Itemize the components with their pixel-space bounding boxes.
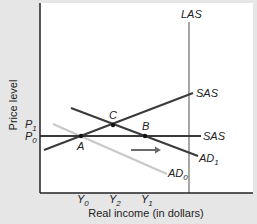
point-a-label: A (76, 140, 84, 152)
y0-label: Y0 (77, 193, 89, 208)
sas-sloped-label: SAS (196, 87, 219, 99)
economics-diagram: LAS AD0 SAS SAS AD1 A C B P1 P0 Y0 Y2 Y1… (0, 0, 257, 224)
sas-flat-label: SAS (203, 130, 226, 142)
y2-label: Y2 (109, 193, 121, 208)
point-b-label: B (142, 120, 149, 132)
x-axis-title: Real income (in dollars) (88, 207, 204, 219)
las-label: LAS (181, 8, 202, 20)
y1-label: Y1 (141, 193, 153, 208)
point-a (79, 134, 83, 138)
point-c (111, 123, 115, 127)
y-axis-title: Price level (7, 80, 19, 131)
point-c-label: C (109, 109, 117, 121)
point-b (143, 134, 147, 138)
